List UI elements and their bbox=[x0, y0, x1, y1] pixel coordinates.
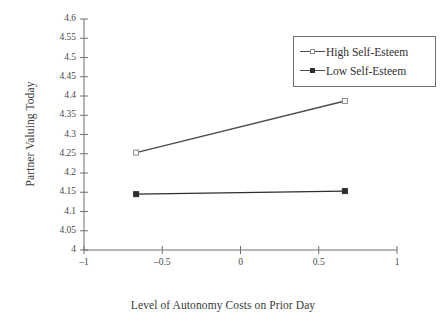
series-low-self-esteem bbox=[134, 189, 348, 197]
y-tick-label: 4.15 bbox=[42, 187, 76, 197]
y-tick-label: 4.1 bbox=[42, 207, 76, 217]
x-tick-label: 0 bbox=[221, 258, 261, 268]
chart-figure: Partner Valuing Today 44.054.14.154.24.2… bbox=[0, 0, 446, 335]
y-tick-label: 4.5 bbox=[42, 53, 76, 63]
y-tick-label: 4 bbox=[42, 245, 76, 255]
series-high-self-esteem bbox=[134, 99, 348, 156]
y-axis-tick-labels: 44.054.14.154.24.254.34.354.44.454.54.55… bbox=[42, 0, 76, 335]
x-tick-label: 0.5 bbox=[299, 258, 339, 268]
y-tick-label: 4.05 bbox=[42, 226, 76, 236]
legend-label-low-self-esteem: Low Self-Esteem bbox=[326, 65, 406, 77]
series-line bbox=[136, 191, 345, 194]
x-tick-label: –0.5 bbox=[142, 258, 182, 268]
legend-item-high-self-esteem: High Self-Esteem bbox=[294, 42, 435, 61]
y-tick-label: 4.25 bbox=[42, 149, 76, 159]
filled-square-marker-icon bbox=[300, 66, 325, 76]
open-square-marker bbox=[134, 150, 139, 155]
filled-square-marker bbox=[342, 189, 347, 194]
open-square-marker-icon bbox=[300, 47, 325, 57]
y-tick-label: 4.35 bbox=[42, 110, 76, 120]
x-axis-title: Level of Autonomy Costs on Prior Day bbox=[0, 299, 446, 311]
y-tick-label: 4.6 bbox=[42, 14, 76, 24]
y-axis-title: Partner Valuing Today bbox=[24, 44, 36, 224]
y-tick-label: 4.45 bbox=[42, 72, 76, 82]
legend-box: High Self-Esteem Low Self-Esteem bbox=[293, 36, 436, 87]
open-square-marker bbox=[342, 99, 347, 104]
series-line bbox=[136, 101, 345, 153]
data-series-layer bbox=[134, 99, 348, 197]
y-tick-label: 4.4 bbox=[42, 91, 76, 101]
x-tick-label: –1 bbox=[64, 258, 104, 268]
x-tick-label: 1 bbox=[377, 258, 417, 268]
legend-label-high-self-esteem: High Self-Esteem bbox=[326, 46, 408, 58]
y-tick-label: 4.2 bbox=[42, 168, 76, 178]
y-tick-label: 4.3 bbox=[42, 130, 76, 140]
filled-square-marker bbox=[134, 192, 139, 197]
legend-item-low-self-esteem: Low Self-Esteem bbox=[294, 61, 435, 80]
y-tick-label: 4.55 bbox=[42, 33, 76, 43]
